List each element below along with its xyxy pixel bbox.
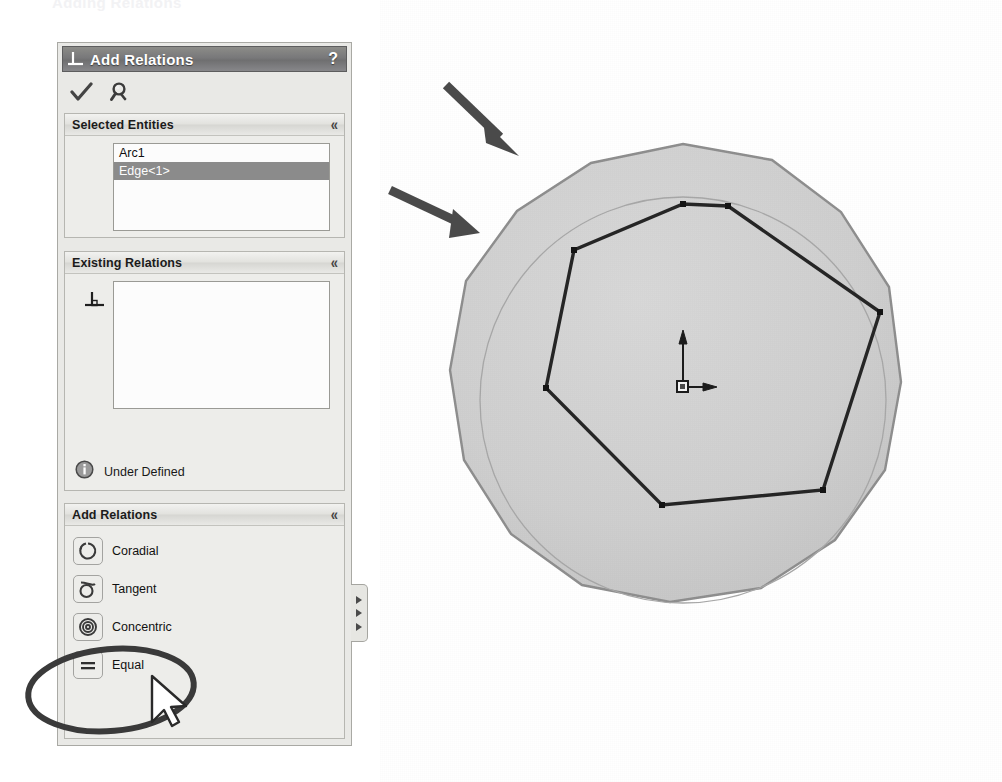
section-header-existing-relations[interactable]: Existing Relations « [65, 252, 344, 274]
section-title: Add Relations [72, 508, 157, 522]
relation-row-tangent[interactable]: Tangent [65, 570, 344, 608]
panel-title: Add Relations [90, 51, 193, 68]
section-existing-relations: Existing Relations « [64, 251, 345, 491]
relation-row-coradial[interactable]: Coradial [65, 532, 344, 570]
chevron-up-icon[interactable]: « [331, 116, 338, 132]
panel-splitter-tab[interactable] [351, 584, 368, 642]
info-icon [75, 460, 94, 483]
perpendicular-relation-icon [66, 49, 86, 69]
relation-label: Tangent [112, 582, 156, 596]
sketch-point [571, 247, 577, 253]
chevron-up-icon[interactable]: « [331, 506, 338, 522]
chevron-up-icon[interactable]: « [331, 254, 338, 270]
equal-icon[interactable] [73, 651, 103, 679]
section-body: Arc1 Edge<1> [65, 136, 344, 238]
relation-row-equal[interactable]: Equal [65, 646, 344, 684]
plate-outer-edge [450, 144, 901, 602]
chevron-right-icon [356, 623, 362, 631]
concentric-icon[interactable] [73, 613, 103, 641]
list-item[interactable]: Edge<1> [114, 162, 329, 180]
sketch-point [680, 201, 686, 207]
section-title: Selected Entities [72, 118, 174, 132]
relation-label: Coradial [112, 544, 159, 558]
relation-label: Equal [112, 658, 144, 672]
section-title: Existing Relations [72, 256, 182, 270]
help-button[interactable]: ? [328, 50, 338, 68]
add-relations-property-manager[interactable]: Add Relations ? Selected Entities « Arc1 [57, 42, 352, 746]
selected-entities-listbox[interactable]: Arc1 Edge<1> [113, 143, 330, 231]
sketch-point [820, 487, 826, 493]
section-add-relations: Add Relations « Coradial [64, 503, 345, 739]
section-header-selected-entities[interactable]: Selected Entities « [65, 114, 344, 136]
existing-relations-listbox[interactable] [113, 281, 330, 409]
sketch-point [659, 502, 665, 508]
chevron-right-icon [356, 609, 362, 617]
section-body: Coradial Tangent [65, 526, 344, 684]
list-item[interactable]: Arc1 [114, 144, 329, 162]
plate-solid [450, 144, 901, 602]
coradial-icon[interactable] [73, 537, 103, 565]
panel-titlebar: Add Relations ? [62, 46, 347, 72]
relation-label: Concentric [112, 620, 172, 634]
relation-row-concentric[interactable]: Concentric [65, 608, 344, 646]
status-row: Under Defined [75, 460, 185, 483]
panel-toolbar[interactable] [64, 77, 345, 107]
section-header-add-relations[interactable]: Add Relations « [65, 504, 344, 526]
sketch-point [877, 309, 883, 315]
cutoff-heading: Adding Relations [52, 0, 182, 11]
tangent-icon[interactable] [73, 575, 103, 603]
section-body: Under Defined [65, 274, 344, 491]
graphics-area[interactable] [380, 0, 1002, 782]
chevron-right-icon [356, 596, 362, 604]
perpendicular-relation-icon [83, 288, 109, 316]
sketch-point [725, 203, 731, 209]
status-badge: Under Defined [104, 465, 185, 479]
sketch-point [543, 385, 549, 391]
undo-magnifier-icon[interactable] [108, 81, 132, 103]
checkmark-icon[interactable] [70, 81, 94, 103]
section-selected-entities: Selected Entities « Arc1 Edge<1> [64, 113, 345, 238]
model-view [380, 0, 1002, 782]
